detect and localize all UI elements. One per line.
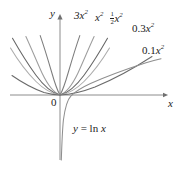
- curve-label-half-x2: 1 2 x2: [110, 11, 123, 26]
- curve-label-3x2: 3x2: [74, 9, 88, 21]
- y-axis-label: y: [50, 8, 55, 19]
- logarithm-curve-group: [61, 59, 161, 160]
- origin-label: 0: [51, 97, 57, 108]
- curve-01x2: [12, 57, 152, 96]
- parabola-family: [11, 36, 153, 95]
- curve-label-03x2: 0.3x2: [132, 22, 154, 34]
- x-axis-label: x: [168, 98, 173, 109]
- curve-label-x2: x2: [95, 11, 103, 23]
- curve-label-01x2: 0.1x2: [142, 44, 164, 56]
- graph-figure: 3x2 x2 1 2 x2 0.3x2 0.1x2 y = ln x 0 x y: [0, 0, 179, 172]
- curve-label-ln-x: y = ln x: [73, 123, 106, 134]
- curve-ln-x: [61, 59, 161, 160]
